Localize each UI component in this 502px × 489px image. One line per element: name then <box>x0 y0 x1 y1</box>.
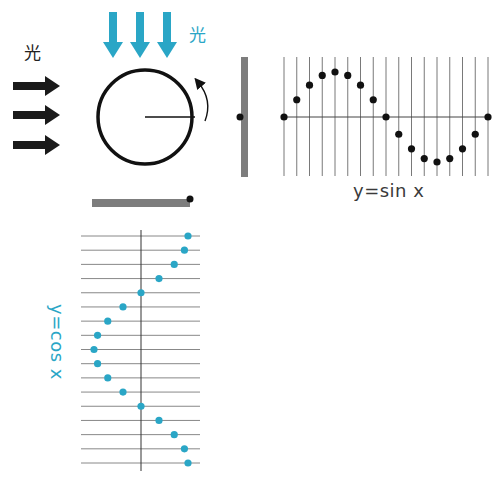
vertical-shadow-screen <box>237 57 249 177</box>
down-arrow-icon <box>130 12 150 58</box>
cos-data-point <box>155 417 162 424</box>
light-label-left: 光 <box>24 45 41 62</box>
cos-data-point <box>104 374 111 381</box>
sine-graph <box>280 57 491 176</box>
cos-data-point <box>94 332 101 339</box>
sin-caption: y=sin x <box>353 182 424 200</box>
right-arrow-icon <box>13 105 60 125</box>
down-arrow-icon <box>157 12 177 58</box>
sin-data-point <box>306 82 313 89</box>
right-arrow-icon <box>13 76 60 96</box>
cos-data-point <box>184 459 191 466</box>
cos-data-point <box>184 232 191 239</box>
cos-data-point <box>119 388 126 395</box>
sin-data-point <box>293 96 300 103</box>
sin-data-point <box>319 72 326 79</box>
sin-data-point <box>433 158 440 165</box>
left-light-arrows <box>13 76 60 155</box>
sin-data-point <box>484 113 491 120</box>
sin-data-point <box>472 131 479 138</box>
sin-data-point <box>459 145 466 152</box>
shadow-dot <box>187 196 194 203</box>
sin-data-point <box>395 131 402 138</box>
cos-data-point <box>171 431 178 438</box>
sin-data-point <box>421 155 428 162</box>
sin-cos-light-diagram <box>0 0 502 489</box>
cos-data-point <box>137 403 144 410</box>
cos-data-point <box>155 275 162 282</box>
sin-data-point <box>331 68 338 75</box>
horizontal-shadow-screen <box>92 196 194 208</box>
sin-data-point <box>357 82 364 89</box>
top-light-arrows <box>103 12 177 58</box>
cos-data-point <box>104 318 111 325</box>
down-arrow-icon <box>103 12 123 58</box>
sin-data-point <box>370 96 377 103</box>
counterclockwise-arrow-icon <box>198 82 208 121</box>
sin-data-point <box>344 72 351 79</box>
cos-data-point <box>119 303 126 310</box>
cos-data-point <box>94 360 101 367</box>
rotating-circle <box>98 70 208 164</box>
sin-data-point <box>408 145 415 152</box>
sin-data-point <box>446 155 453 162</box>
right-arrow-icon <box>13 135 60 155</box>
cos-caption: y=cos x <box>48 304 66 380</box>
sin-data-point <box>280 113 287 120</box>
cos-data-point <box>171 261 178 268</box>
cos-data-point <box>181 247 188 254</box>
cosine-graph <box>81 230 200 471</box>
light-label-top: 光 <box>189 27 206 44</box>
sin-data-point <box>382 113 389 120</box>
cos-data-point <box>90 346 97 353</box>
cos-data-point <box>137 289 144 296</box>
shadow-dot <box>237 114 244 121</box>
cos-data-point <box>181 445 188 452</box>
